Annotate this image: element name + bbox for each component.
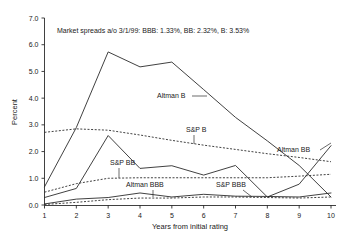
x-tick-label: 7 — [234, 212, 238, 219]
y-tick-label: 6.0 — [29, 41, 39, 48]
series-label-s-p-bbb: S&P BBB — [216, 181, 246, 188]
series-label-s-p-b: S&P B — [186, 126, 207, 133]
market-spreads-annotation: Market spreads a/o 3/1/99: BBB: 1.33%, B… — [57, 27, 249, 35]
x-tick-label: 3 — [106, 212, 110, 219]
y-tick-label: 5.0 — [29, 68, 39, 75]
x-tick-label: 9 — [297, 212, 301, 219]
y-axis-title: Percent — [10, 98, 19, 125]
x-tick-label: 1 — [43, 212, 47, 219]
y-tick-label: 7.0 — [29, 15, 39, 22]
y-tick-label: 3.0 — [29, 121, 39, 128]
x-axis-title: Years from initial rating — [152, 222, 228, 231]
series-label-s-p-bb: S&P BB — [110, 159, 135, 166]
series-label-altman-bbb: Altman BBB — [126, 181, 164, 188]
y-tick-label: 0.0 — [29, 202, 39, 209]
x-tick-label: 5 — [170, 212, 174, 219]
y-tick-label: 1.0 — [29, 175, 39, 182]
x-tick-label: 8 — [265, 212, 269, 219]
y-tick-label: 2.0 — [29, 148, 39, 155]
x-tick-label: 6 — [202, 212, 206, 219]
x-tick-label: 10 — [327, 212, 335, 219]
default-rates-line-chart: 0.01.02.03.04.05.06.07.0 Percent 1234567… — [0, 0, 349, 240]
y-tick-label: 4.0 — [29, 95, 39, 102]
series-label-altman-b: Altman B — [157, 92, 186, 99]
series-label-altman-bb: Altman BB — [277, 146, 310, 153]
x-tick-label: 2 — [74, 212, 78, 219]
x-tick-label: 4 — [138, 212, 142, 219]
chart-figure: 0.01.02.03.04.05.06.07.0 Percent 1234567… — [0, 0, 349, 240]
